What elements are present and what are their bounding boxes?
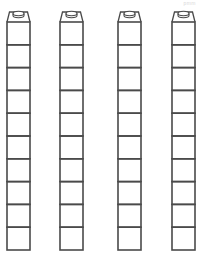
cube [7,90,30,113]
cube [118,68,141,91]
cube [60,90,83,113]
cube [172,68,195,91]
connector-cap [118,11,141,22]
cube [7,22,30,45]
cube [172,45,195,68]
cube [7,68,30,91]
cube [172,22,195,45]
cube [60,227,83,250]
cube [7,182,30,205]
cube [60,159,83,182]
cube [7,159,30,182]
cube [118,227,141,250]
cube-towers [0,0,200,253]
cube [172,90,195,113]
cube [118,113,141,136]
cube [60,136,83,159]
cube [118,22,141,45]
connector-cap [7,11,30,22]
cube [60,45,83,68]
cube [118,45,141,68]
cube [60,113,83,136]
cube [118,204,141,227]
cube [172,204,195,227]
cube [7,113,30,136]
cube [118,182,141,205]
cube-tower-2 [60,11,83,250]
cube [118,90,141,113]
cube-tower-3 [118,11,141,250]
cube [60,68,83,91]
cube-tower-1 [7,11,30,250]
cube [60,182,83,205]
cube [7,136,30,159]
cube [172,136,195,159]
cube-tower-4 [172,11,195,250]
cube [172,159,195,182]
connector-cap [60,11,83,22]
cube [60,204,83,227]
cube [118,159,141,182]
cube [7,45,30,68]
cube [172,113,195,136]
cube [60,22,83,45]
connector-cap [172,11,195,22]
cube [118,136,141,159]
cube [7,204,30,227]
cube [172,182,195,205]
cube [172,227,195,250]
cube [7,227,30,250]
